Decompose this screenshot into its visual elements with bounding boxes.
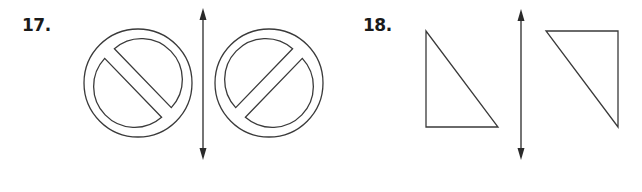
problem-18-original-triangle <box>426 31 498 127</box>
problem-18-reflected-triangle <box>546 31 618 127</box>
inner-segment-upper <box>225 39 293 108</box>
inner-segment-upper <box>114 39 182 108</box>
problem-17-original-sign <box>84 29 192 137</box>
arrow-up-icon <box>200 8 207 20</box>
arrow-down-icon <box>200 148 207 160</box>
outer-ring <box>215 29 323 137</box>
inner-segment-lower <box>245 58 313 127</box>
problem-18-reflection-line <box>518 9 525 160</box>
arrow-down-icon <box>518 148 525 160</box>
worksheet-figures <box>0 0 642 192</box>
problem-17-reflected-sign <box>215 29 323 137</box>
arrow-up-icon <box>518 9 525 21</box>
outer-ring <box>84 29 192 137</box>
inner-segment-lower <box>94 58 162 127</box>
problem-17-reflection-line <box>200 8 207 160</box>
